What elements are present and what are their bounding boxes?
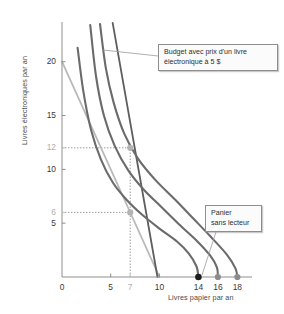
y-tick-label-5: 5 [36, 218, 56, 228]
x-tick-label-18: 18 [227, 282, 247, 292]
choice-with-reader-low [127, 209, 133, 215]
budget-line-ebook-5-dollars [113, 23, 158, 277]
budget-annotation-line-1: Budget avec prix d'un livre [164, 48, 273, 58]
y-tick-label-10: 10 [36, 164, 56, 174]
basket-no-reader [195, 274, 202, 281]
choice-with-reader-high [127, 145, 133, 151]
x-tick-label-5: 5 [101, 282, 121, 292]
budget-annotation-line-2: électronique à 5 $ [164, 58, 273, 68]
basket-annotation-line-2: sans lecteur [211, 219, 257, 229]
y-axis-title: Livres électroniques par an [20, 31, 29, 171]
x-tick-label-7: 7 [120, 282, 140, 292]
x-tick-label-0: 0 [52, 282, 72, 292]
budget-annotation-callout: Budget avec prix d'un livre électronique… [158, 44, 278, 71]
basket-annotation-callout: Panier sans lecteur [205, 205, 262, 232]
basket-18 [234, 274, 240, 280]
y-tick-label-6: 6 [36, 207, 56, 217]
x-tick-label-14: 14 [188, 282, 208, 292]
basket-callout-leader [202, 232, 216, 275]
y-tick-label-20: 20 [36, 56, 56, 66]
x-tick-label-10: 10 [149, 282, 169, 292]
guideline-group [62, 144, 130, 277]
y-tick-label-12: 12 [36, 142, 56, 152]
basket-16 [215, 274, 221, 280]
x-axis-title: Livres papier par an [168, 293, 234, 302]
annotation-leader-group [103, 50, 216, 275]
budget-callout-leader [103, 50, 158, 56]
chart-figure: 057101416182015121065 Livres électroniqu… [0, 0, 284, 314]
y-tick-label-15: 15 [36, 110, 56, 120]
basket-annotation-line-1: Panier [211, 209, 257, 219]
x-tick-label-16: 16 [208, 282, 228, 292]
